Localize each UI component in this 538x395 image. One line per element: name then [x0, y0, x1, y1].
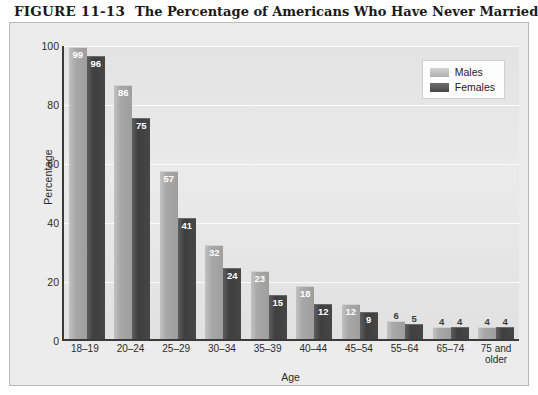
- bar-males: 86: [114, 85, 132, 339]
- legend-item-females: Females: [430, 81, 495, 93]
- y-tick-label: 0: [25, 335, 59, 347]
- bar-females: 41: [178, 218, 196, 339]
- y-tick-label: 20: [25, 276, 59, 288]
- bar-value-label: 23: [254, 274, 265, 284]
- bar-value-label: 9: [366, 315, 371, 325]
- y-axis-tick-labels: 100806040200: [21, 23, 59, 385]
- bar-group: 2315: [251, 46, 287, 339]
- bar-females: 4: [496, 327, 514, 339]
- bar-value-label: 4: [485, 317, 490, 327]
- bar-value-label: 12: [318, 307, 329, 317]
- bar-group: 8675: [114, 46, 150, 339]
- legend-label-females: Females: [455, 81, 495, 93]
- bar-group: 129: [342, 46, 378, 339]
- bar-males: 18: [296, 286, 314, 339]
- bar-value-label: 4: [457, 317, 462, 327]
- bar-value-label: 12: [345, 307, 356, 317]
- bar-group: 5741: [160, 46, 196, 339]
- figure-title-bar: FIGURE 11-13 The Percentage of Americans…: [0, 0, 538, 22]
- bar-males: 4: [433, 327, 451, 339]
- legend-item-males: Males: [430, 66, 495, 78]
- bar-value-label: 41: [181, 221, 192, 231]
- bar-females: 9: [360, 312, 378, 339]
- legend-swatch-females-icon: [430, 83, 449, 92]
- bar-females: 96: [87, 56, 105, 339]
- bar-females: 12: [314, 304, 332, 339]
- bar-group: 3224: [205, 46, 241, 339]
- bar-group: 1812: [296, 46, 332, 339]
- bar-value-label: 4: [439, 317, 444, 327]
- bar-females: 75: [132, 118, 150, 339]
- x-tick-label: 18–19: [63, 343, 107, 365]
- figure-number: FIGURE 11-13: [14, 3, 125, 19]
- x-tick-label: 30–34: [200, 343, 244, 365]
- bar-value-label: 15: [272, 298, 283, 308]
- legend-swatch-males-icon: [430, 68, 449, 77]
- bar-value-label: 24: [227, 271, 238, 281]
- bar-females: 24: [223, 268, 241, 339]
- bar-females: 15: [269, 295, 287, 339]
- x-tick-label: 40–44: [291, 343, 335, 365]
- x-tick-label: 45–54: [337, 343, 381, 365]
- bar-value-label: 6: [394, 311, 399, 321]
- bar-value-label: 96: [90, 59, 101, 69]
- bar-value-label: 18: [300, 289, 311, 299]
- x-tick-label: 25–29: [154, 343, 198, 365]
- bar-group: 9996: [69, 46, 105, 339]
- chart-legend: Males Females: [422, 60, 505, 99]
- bar-males: 23: [251, 271, 269, 339]
- figure-caption: The Percentage of Americans Who Have Nev…: [135, 4, 538, 19]
- bar-value-label: 86: [118, 88, 129, 98]
- bar-value-label: 57: [163, 174, 174, 184]
- y-tick-label: 60: [25, 158, 59, 170]
- figure-container: FIGURE 11-13 The Percentage of Americans…: [0, 0, 538, 395]
- plot-wrapper: 999686755741322423151812129654444 Males …: [62, 46, 519, 341]
- y-tick-label: 40: [25, 217, 59, 229]
- bar-group: 65: [387, 46, 423, 339]
- bar-males: 57: [160, 171, 178, 339]
- y-tick-label: 100: [25, 40, 59, 52]
- x-tick-label: 75 and older: [474, 343, 518, 365]
- bar-value-label: 4: [503, 317, 508, 327]
- y-tick-label: 80: [25, 99, 59, 111]
- x-tick-label: 20–24: [109, 343, 153, 365]
- bar-value-label: 99: [72, 50, 83, 60]
- x-axis-tick-labels: 18–1920–2425–2930–3435–3940–4445–5455–64…: [62, 343, 519, 365]
- bar-males: 6: [387, 321, 405, 339]
- x-tick-label: 65–74: [428, 343, 472, 365]
- bar-value-label: 32: [209, 248, 220, 258]
- bar-males: 12: [342, 304, 360, 339]
- chart-panel: Percentage 100806040200 9996867557413224…: [9, 22, 529, 386]
- x-tick-label: 35–39: [246, 343, 290, 365]
- bar-males: 99: [69, 47, 87, 339]
- bar-males: 4: [478, 327, 496, 339]
- bar-males: 32: [205, 245, 223, 339]
- bar-value-label: 5: [412, 314, 417, 324]
- x-axis-title: Age: [62, 371, 519, 383]
- bar-females: 5: [405, 324, 423, 339]
- legend-label-males: Males: [455, 66, 483, 78]
- x-tick-label: 55–64: [383, 343, 427, 365]
- bar-females: 4: [451, 327, 469, 339]
- bar-value-label: 75: [136, 121, 147, 131]
